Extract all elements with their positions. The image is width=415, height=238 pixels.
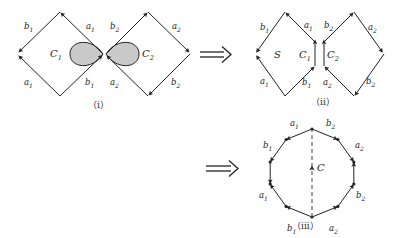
vertex-dot xyxy=(336,205,339,208)
label-b2-bottom-right: b2 xyxy=(171,77,180,89)
implies-arrow-1 xyxy=(198,44,238,66)
label-a1-bottom-left-ii: a1 xyxy=(260,76,269,88)
right-diamond-i: b2 a2 a2 b2 C2 xyxy=(106,12,190,96)
right-shape-ii: b2 a2 a2 b2 C2 xyxy=(323,12,384,96)
vertex-dot xyxy=(352,182,355,185)
edge-a1-lower-left-iii xyxy=(271,186,286,207)
vertex-dot xyxy=(269,160,272,163)
label-a2-bottom-left: a2 xyxy=(110,77,119,89)
figure-canvas: b1 a1 a1 b1 C1 b2 xyxy=(0,0,415,238)
edge-a1-top-left-iii xyxy=(288,129,313,139)
label-a1-lower-left-iii: a1 xyxy=(259,190,268,202)
label-a1-top-right-ii: a1 xyxy=(304,20,313,32)
label-b2-top-left-ii: b2 xyxy=(324,20,333,32)
shaded-region-c2 xyxy=(106,42,139,65)
vertex-dot xyxy=(352,160,355,163)
label-a2-top-right-ii: a2 xyxy=(368,22,377,34)
caption-ii: （ii） xyxy=(311,95,335,108)
vertex-dot xyxy=(285,205,288,208)
label-a1-top-left-iii: a1 xyxy=(290,118,299,130)
caption-iii: （iii） xyxy=(292,219,319,232)
vertex-dot xyxy=(269,182,272,185)
label-b1-bottom-right-ii: b1 xyxy=(302,77,311,89)
label-b2-lower-right-iii: b2 xyxy=(356,190,365,202)
label-b1-bottom-right: b1 xyxy=(85,77,94,89)
edge-a2-top-right xyxy=(148,12,189,52)
decagon-iii: C a1 b2 b1 a2 a1 b2 b1 xyxy=(259,118,365,235)
vertex-dot xyxy=(285,138,288,141)
label-b2-top-right-iii: b2 xyxy=(326,118,335,130)
label-b1-upper-left-iii: b1 xyxy=(263,140,272,152)
label-surface-s: S xyxy=(274,49,281,60)
edge-b1-bottom-left-iii xyxy=(288,207,313,217)
shaded-region-c1 xyxy=(70,42,103,65)
label-a2-bottom-left-ii: a2 xyxy=(323,77,332,89)
label-a2-bottom-right-iii: a2 xyxy=(329,223,338,235)
label-a2-upper-right-iii: a2 xyxy=(355,140,364,152)
label-a1-bottom-left: a1 xyxy=(24,77,33,89)
edge-a2-bottom-right-iii xyxy=(312,207,337,217)
label-a2-top-right: a2 xyxy=(172,21,181,33)
label-curve-c1-ii: C1 xyxy=(299,49,311,63)
edge-b1-upper-left-iii xyxy=(271,140,286,161)
label-b1-top-left: b1 xyxy=(24,21,33,33)
caption-i: （i） xyxy=(88,98,109,111)
label-curve-c2-ii: C2 xyxy=(327,49,339,63)
implies-arrow-2 xyxy=(204,158,246,182)
label-a1-top-right: a1 xyxy=(86,21,95,33)
edge-b2-bottom-right-ii xyxy=(356,54,385,95)
label-curve-c-iii: C xyxy=(317,162,325,173)
left-shape-ii: b1 a1 a1 b1 S C1 xyxy=(257,12,315,96)
left-diamond-i: b1 a1 a1 b1 C1 xyxy=(20,12,104,96)
edge-b1-top-left xyxy=(20,12,61,52)
label-b2-top-left: b2 xyxy=(110,21,119,33)
label-region-c1: C1 xyxy=(50,48,62,62)
edge-b2-bottom-right xyxy=(150,54,191,95)
label-b2-bottom-right-ii: b2 xyxy=(366,76,375,88)
vertex-dot xyxy=(336,138,339,141)
edge-a2-upper-right-iii xyxy=(338,140,353,161)
label-region-c2: C2 xyxy=(142,48,154,62)
label-b1-top-left-ii: b1 xyxy=(260,22,269,34)
edge-right-lower-link-iii xyxy=(338,186,353,207)
edge-b2-top-right-iii xyxy=(312,129,337,139)
